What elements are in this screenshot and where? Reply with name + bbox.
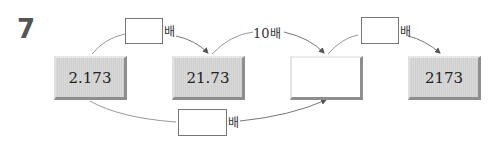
- number-box-4: 2173: [408, 56, 481, 100]
- unit-label-4: 배: [228, 113, 239, 130]
- number-box-2: 21.73: [172, 56, 245, 100]
- number-box-1: 2.173: [54, 56, 127, 100]
- number-box-2-value: 21.73: [187, 69, 230, 87]
- number-box-4-value: 2173: [425, 69, 463, 87]
- unit-label-1: 배: [164, 22, 175, 39]
- number-box-3-blank[interactable]: [290, 56, 363, 100]
- number-box-1-value: 2.173: [69, 69, 112, 87]
- unit-label-3: 배: [400, 22, 411, 39]
- multiplier-10-label: 10배: [253, 24, 281, 41]
- answer-blank-box3-to-box4[interactable]: [361, 17, 399, 44]
- answer-blank-box1-to-box3[interactable]: [178, 109, 227, 136]
- answer-blank-box1-to-box2[interactable]: [125, 18, 163, 44]
